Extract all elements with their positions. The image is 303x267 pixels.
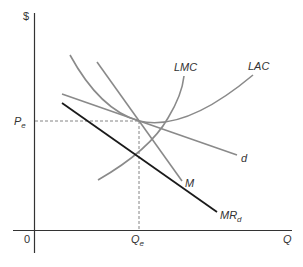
m-label: M [185, 177, 195, 189]
quantity-equilibrium-label: Qe [131, 233, 145, 248]
price-equilibrium-label: Pe [14, 115, 26, 130]
lac-label: LAC [248, 60, 269, 72]
mrd-label: MRd [220, 209, 242, 224]
x-axis-label: Q [283, 233, 292, 245]
d-curve [62, 94, 237, 155]
mrd-curve [62, 103, 217, 212]
lac-curve [70, 55, 253, 123]
y-axis-label: $ [23, 10, 29, 22]
economics-diagram: $ Q 0 Pe Qe LMC LAC d M MRd [0, 0, 303, 267]
lmc-label: LMC [174, 61, 197, 73]
d-label: d [241, 152, 248, 164]
origin-label: 0 [24, 233, 30, 245]
